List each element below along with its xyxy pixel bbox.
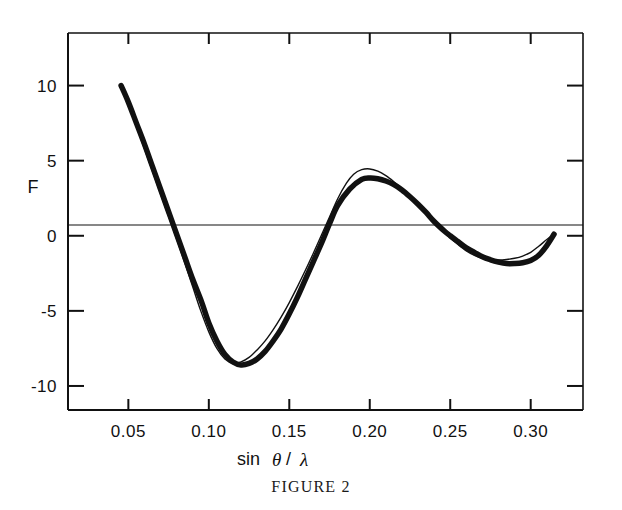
y-axis-title: F — [28, 177, 39, 197]
y-tick-label-0: 0 — [47, 227, 57, 246]
x-tick-label-0.15: 0.15 — [272, 422, 307, 441]
x-axis-title-theta: θ — [272, 449, 281, 470]
x-axis-title: sin θ / λ — [237, 449, 308, 470]
x-axis-title-sin: sin — [237, 449, 260, 469]
y-axis-ticks-right — [567, 86, 583, 386]
x-axis-tick-labels: 0.050.100.150.200.250.30 — [111, 422, 548, 441]
figure-caption: FIGURE 2 — [271, 478, 350, 495]
figure-container: 0.050.100.150.200.250.30 1050-5-10 F sin… — [0, 0, 622, 510]
x-axis-title-lambda: λ — [299, 449, 308, 470]
y-axis-tick-labels: 1050-5-10 — [31, 77, 57, 396]
y-axis-ticks — [68, 86, 84, 386]
y-tick-label-5: 5 — [47, 152, 57, 171]
x-tick-label-0.20: 0.20 — [352, 422, 387, 441]
x-axis-ticks — [128, 399, 530, 410]
x-tick-label-0.05: 0.05 — [111, 422, 146, 441]
x-axis-ticks-top — [128, 33, 530, 44]
y-tick-label--10: -10 — [31, 377, 57, 396]
y-tick-label--5: -5 — [41, 302, 57, 321]
plot-frame — [68, 33, 583, 410]
x-tick-label-0.25: 0.25 — [433, 422, 468, 441]
x-tick-label-0.10: 0.10 — [191, 422, 226, 441]
y-tick-label-10: 10 — [37, 77, 57, 96]
x-axis-title-slash: / — [286, 449, 291, 469]
figure-plot: 0.050.100.150.200.250.30 1050-5-10 F sin… — [0, 0, 622, 510]
x-tick-label-0.30: 0.30 — [513, 422, 548, 441]
